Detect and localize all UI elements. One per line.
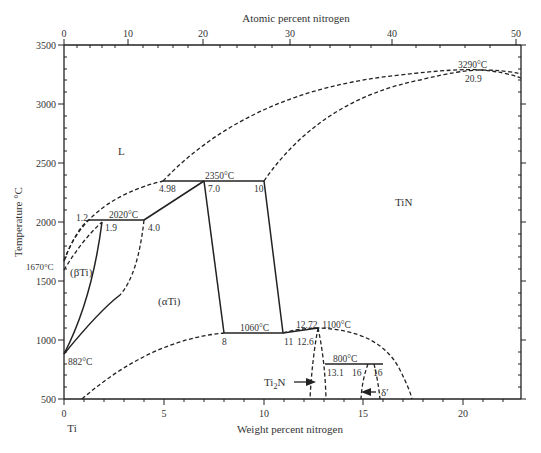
ti-label: Ti — [67, 422, 76, 434]
svg-text:15: 15 — [358, 408, 368, 419]
svg-text:3000: 3000 — [36, 99, 56, 110]
phase-delta: δ′ — [381, 386, 389, 398]
svg-text:1.2: 1.2 — [76, 213, 88, 223]
svg-text:20: 20 — [458, 408, 468, 419]
svg-text:30: 30 — [285, 28, 295, 39]
svg-text:12.72, 1100°C: 12.72, 1100°C — [296, 320, 351, 330]
svg-text:2350°C: 2350°C — [205, 171, 234, 181]
svg-text:3500: 3500 — [36, 40, 56, 51]
top-ticks — [64, 39, 516, 48]
svg-text:5: 5 — [162, 408, 167, 419]
phase-l: L — [118, 145, 125, 157]
alpha-left-boundary — [204, 181, 224, 333]
svg-text:40: 40 — [387, 28, 397, 39]
phase-labels: L (βTi) (αTi) TiN Ti2N δ′ — [70, 145, 412, 398]
dashed-boundaries — [64, 70, 521, 399]
svg-text:1060°C: 1060°C — [240, 323, 269, 333]
ti2n-right — [318, 328, 326, 399]
svg-text:50: 50 — [511, 28, 521, 39]
tin-liquidus — [264, 70, 521, 181]
svg-text:20: 20 — [198, 28, 208, 39]
top-axis-title: Atomic percent nitrogen — [242, 12, 350, 24]
svg-text:2020°C: 2020°C — [109, 210, 138, 220]
left-ticks — [58, 45, 67, 399]
alpha-beta-upper — [120, 220, 144, 295]
svg-text:800°C: 800°C — [333, 354, 357, 364]
right-ticks — [518, 45, 526, 399]
phase-beta-ti: (βTi) — [70, 266, 93, 279]
svg-text:7.0: 7.0 — [208, 184, 220, 194]
svg-text:1000: 1000 — [36, 335, 56, 346]
ti-n-phase-diagram: Atomic percent nitrogen Weight percent n… — [0, 0, 541, 453]
svg-text:10: 10 — [259, 408, 269, 419]
svg-text:4.98: 4.98 — [159, 184, 176, 194]
phase-tin: TiN — [395, 196, 412, 208]
svg-text:16: 16 — [373, 368, 383, 378]
alpha-solvus-low — [82, 333, 224, 399]
alpha-right-boundary — [264, 181, 283, 333]
svg-text:1500: 1500 — [36, 276, 56, 287]
svg-text:0: 0 — [62, 408, 67, 419]
svg-text:8: 8 — [222, 337, 227, 347]
svg-text:12.6: 12.6 — [297, 337, 314, 347]
svg-text:10: 10 — [123, 28, 133, 39]
svg-text:500: 500 — [41, 394, 56, 405]
svg-text:13.1: 13.1 — [327, 368, 344, 378]
phase-ti2n: Ti2N — [264, 376, 285, 391]
alpha-beta-lower — [64, 295, 120, 354]
svg-text:2500: 2500 — [36, 158, 56, 169]
svg-text:11: 11 — [284, 337, 293, 347]
svg-text:882°C: 882°C — [68, 357, 92, 367]
svg-text:16: 16 — [352, 368, 362, 378]
svg-text:0: 0 — [62, 28, 67, 39]
svg-text:3290°C: 3290°C — [458, 60, 487, 70]
annotations: 3290°C 20.9 2350°C 4.98 7.0 10 2020°C 1.… — [26, 60, 487, 378]
svg-text:4.0: 4.0 — [148, 223, 160, 233]
svg-text:2000: 2000 — [36, 217, 56, 228]
phase-alpha-ti: (αTi) — [158, 295, 181, 308]
bottom-ticks — [64, 399, 503, 405]
top-tick-labels: 0 10 20 30 40 50 — [62, 28, 522, 39]
delta-arrow — [361, 388, 376, 396]
liquidus-upper — [163, 70, 521, 181]
bottom-tick-labels: 0 5 10 15 20 — [62, 408, 469, 419]
bottom-axis-title: Weight percent nitrogen — [237, 423, 344, 435]
svg-text:1.9: 1.9 — [105, 223, 117, 233]
svg-text:20.9: 20.9 — [465, 74, 482, 84]
y-axis-title: Temperature °C — [12, 187, 24, 257]
y-tick-labels: 3500 3000 2500 2000 1500 1000 500 — [36, 40, 56, 405]
ti2n-arrow — [294, 378, 316, 386]
svg-text:1670°C: 1670°C — [26, 262, 54, 272]
svg-text:10: 10 — [254, 184, 264, 194]
